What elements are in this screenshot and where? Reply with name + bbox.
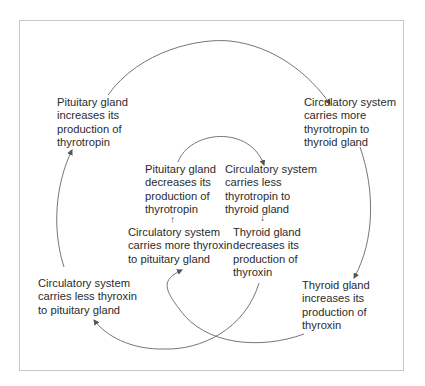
node-thyroid-increases: Thyroid gland increases its production o… [302, 279, 370, 333]
node-thyroid-decreases: Thyroid gland decreases its production o… [233, 226, 301, 280]
arrow-thyroid-inc-to-circ-more [167, 270, 304, 343]
arrow-down-icon: ↓ [260, 213, 265, 223]
node-pituitary-decreases: Pituitary gland decreases its production… [145, 163, 216, 217]
arrow-outer-left [57, 150, 72, 267]
arrow-outer-top [108, 41, 330, 104]
node-circ-more-thyrotropin: Circulatory system carries more thyrotro… [304, 96, 396, 150]
node-circ-more-thyroxin: Circulatory system carries more thyroxin… [128, 226, 232, 266]
node-circ-less-thyroxin: Circulatory system carries less thyroxin… [38, 277, 137, 317]
node-circ-less-thyrotropin: Circulatory system carries less thyrotro… [225, 163, 317, 217]
arrow-up-icon: ↑ [170, 215, 175, 225]
node-pituitary-increases: Pituitary gland increases its production… [57, 96, 128, 150]
arrow-inner-top [178, 136, 264, 165]
arrow-outer-right [354, 147, 371, 278]
